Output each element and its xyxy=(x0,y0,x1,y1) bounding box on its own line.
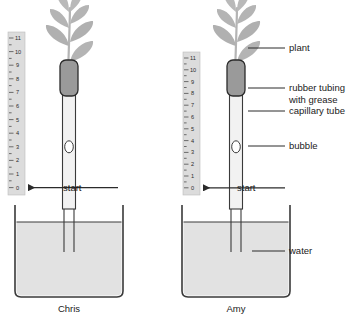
ruler-tick-right-3: 3 xyxy=(191,149,194,155)
callout-label-plant: plant xyxy=(289,42,310,54)
ruler-tick-left-6: 6 xyxy=(16,103,19,109)
bubble-right xyxy=(232,141,241,153)
setup-name-right: Amy xyxy=(205,303,267,314)
ruler-tick-right-6: 6 xyxy=(191,114,194,120)
ruler-tick-left-10: 10 xyxy=(15,49,21,55)
start-label-left: start xyxy=(63,182,81,194)
ruler-tick-right-0: 0 xyxy=(191,185,194,191)
ruler-tick-left-9: 9 xyxy=(16,62,19,68)
ruler-tick-right-8: 8 xyxy=(191,90,194,96)
water-fill-left xyxy=(17,222,122,296)
ruler-tick-left-5: 5 xyxy=(16,117,19,123)
callout-label-capillary-tube: capillary tube xyxy=(289,105,345,117)
ruler-tick-right-7: 7 xyxy=(191,102,194,108)
ruler-tick-right-10: 10 xyxy=(190,67,196,73)
setup-name-left: Chris xyxy=(38,303,100,314)
callout-label-rubber-tubing: rubber tubing with grease xyxy=(289,82,353,105)
ruler-tick-left-8: 8 xyxy=(16,76,19,82)
bubble-left xyxy=(65,141,74,153)
ruler-tick-left-0: 0 xyxy=(16,185,19,191)
water-fill-right xyxy=(184,222,289,296)
ruler-tick-left-7: 7 xyxy=(16,89,19,95)
ruler-tick-right-11: 11 xyxy=(190,55,196,61)
start-label-right: start xyxy=(237,182,255,194)
setup-right xyxy=(182,0,290,297)
callout-lines xyxy=(248,48,285,251)
ruler-tick-right-1: 1 xyxy=(191,173,194,179)
ruler-tick-right-9: 9 xyxy=(191,79,194,85)
rubber-tubing-right xyxy=(227,60,245,96)
ruler-tick-left-1: 1 xyxy=(16,171,19,177)
ruler-tick-right-2: 2 xyxy=(191,161,194,167)
callout-label-water: water xyxy=(289,245,312,257)
ruler-tick-left-3: 3 xyxy=(16,144,19,150)
ruler-tick-left-4: 4 xyxy=(16,130,19,136)
ruler-tick-left-2: 2 xyxy=(16,157,19,163)
diagram-root: 11 10 9 8 7 6 5 4 3 2 1 0 11 10 9 8 7 6 … xyxy=(0,0,353,322)
rubber-tubing-left xyxy=(60,60,78,96)
ruler-tick-left-11: 11 xyxy=(15,35,21,41)
setup-left xyxy=(8,0,123,297)
callout-label-bubble: bubble xyxy=(289,140,318,152)
ruler-tick-right-5: 5 xyxy=(191,126,194,132)
ruler-tick-right-4: 4 xyxy=(191,138,194,144)
